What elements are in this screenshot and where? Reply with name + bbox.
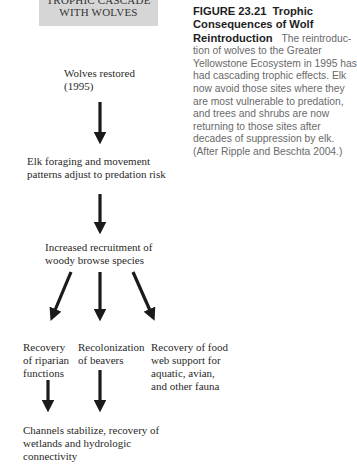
- caption-body-9: decades of suppression by elk.: [193, 133, 357, 146]
- caption-body-3: Yellowstone Ecosystem in 1995 has: [193, 58, 357, 71]
- caption-body-7: and trees and shrubs are now: [193, 108, 357, 121]
- caption-body-2: tion of wolves to the Greater: [193, 45, 357, 58]
- caption-body-1: The reintroduc-: [281, 33, 351, 44]
- caption-heading: FIGURE 23.21 Trophic Consequences of Wol…: [193, 5, 357, 45]
- arrows-layer: [0, 0, 200, 470]
- caption-body-8: returning to those sites after: [193, 121, 357, 134]
- figure-label: FIGURE 23.21: [193, 5, 266, 17]
- figure-title-3: Reintroduction: [193, 32, 273, 44]
- caption-body-4: had cascading trophic effects. Elk: [193, 70, 357, 83]
- arrow-woody-to-foodweb: [133, 272, 152, 315]
- figure-caption: FIGURE 23.21 Trophic Consequences of Wol…: [193, 5, 357, 159]
- arrow-woody-to-riparian: [53, 272, 71, 315]
- caption-body-5: now avoid those sites where they: [193, 83, 357, 96]
- caption-body-10: (After Ripple and Beschta 2004.): [193, 146, 357, 159]
- figure-title-1: Trophic: [273, 5, 313, 17]
- caption-body-6: are most vulnerable to predation,: [193, 96, 357, 109]
- figure-title-2: Consequences of Wolf: [193, 18, 313, 30]
